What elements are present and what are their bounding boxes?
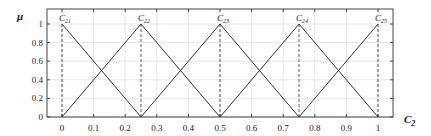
- y-tick-labels: 00.20.40.60.81: [32, 19, 44, 122]
- peak-label-C25: C25: [375, 13, 387, 24]
- x-axis-label: C2: [404, 113, 415, 128]
- x-tick-label: 0.3: [151, 123, 163, 133]
- y-tick-label: 0: [39, 112, 44, 122]
- peak-label-C24: C24: [296, 13, 308, 24]
- x-tick-label: 0.7: [278, 123, 290, 133]
- x-tick-label: 0.5: [214, 123, 226, 133]
- x-tick-labels: 00.10.20.30.40.50.60.70.80.91: [60, 123, 381, 133]
- x-tick-label: 0.4: [183, 123, 195, 133]
- peak-labels: C21C22C23C24C25: [59, 13, 387, 24]
- x-tick-label: 0.6: [246, 123, 258, 133]
- x-tick-label: 0: [60, 123, 65, 133]
- y-axis-label: μ: [16, 10, 23, 22]
- x-tick-label: 0.1: [88, 123, 99, 133]
- y-tick-label: 0.8: [32, 38, 44, 48]
- y-tick-label: 1: [39, 19, 44, 29]
- peak-label-C23: C23: [217, 13, 229, 24]
- peak-label-C22: C22: [138, 13, 150, 24]
- peak-label-C21: C21: [59, 13, 71, 24]
- x-tick-label: 0.2: [120, 123, 131, 133]
- membership-function-chart: 00.10.20.30.40.50.60.70.80.91 00.20.40.6…: [0, 0, 431, 136]
- y-tick-label: 0.2: [32, 93, 43, 103]
- x-tick-label: 1: [376, 123, 381, 133]
- y-tick-label: 0.6: [32, 56, 44, 66]
- y-tick-label: 0.4: [32, 75, 44, 85]
- x-tick-label: 0.9: [341, 123, 353, 133]
- x-tick-label: 0.8: [309, 123, 321, 133]
